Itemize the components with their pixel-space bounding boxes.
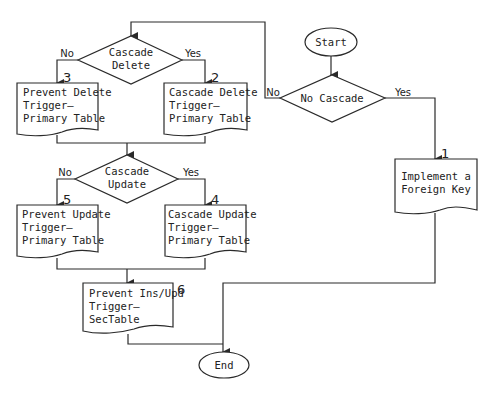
step-1-line2: Foreign Key	[401, 183, 471, 195]
cascade-delete-yes-label: Yes	[184, 48, 201, 59]
step-6-line2: Trigger—	[89, 300, 140, 312]
connector-cascadeupdate-yes	[178, 179, 205, 205]
step-5-prevent-update-trigger: Prevent Update Trigger— Primary Table 5	[17, 192, 111, 258]
step-4-line2: Trigger—	[168, 221, 219, 233]
step-5-line2: Trigger—	[22, 221, 73, 233]
decision-no-cascade-label: No Cascade	[300, 92, 363, 104]
step-3-line1: Prevent Delete	[23, 86, 112, 98]
step-3-line2: Trigger—	[23, 99, 74, 111]
step-4-number: 4	[211, 192, 219, 207]
step-4-cascade-update-trigger: Cascade Update Trigger— Primary Table 4	[165, 192, 257, 258]
start-label: Start	[315, 36, 347, 48]
step-6-line1: Prevent Ins/Upd	[89, 287, 184, 299]
step-2-number: 2	[211, 70, 219, 85]
end-label: End	[215, 359, 234, 371]
connector-step6-to-end	[128, 334, 223, 344]
connector-join-update	[57, 258, 205, 269]
connector-step1-to-end	[223, 213, 435, 352]
cascade-update-yes-label: Yes	[182, 167, 199, 178]
no-cascade-no-label: No	[266, 87, 280, 98]
step-3-prevent-delete-trigger: Prevent Delete Trigger— Primary Table 3	[17, 70, 112, 136]
decision-cascade-update: Cascade Update Yes No	[58, 155, 199, 203]
no-cascade-yes-label: Yes	[394, 87, 411, 98]
step-5-number: 5	[63, 192, 71, 207]
cascade-update-no-label: No	[58, 167, 72, 178]
connector-cascadedelete-yes	[182, 60, 205, 83]
step-4-line1: Cascade Update	[168, 208, 257, 220]
step-6-number: 6	[177, 282, 185, 297]
end-terminal: End	[199, 352, 249, 378]
step-5-line1: Prevent Update	[22, 208, 111, 220]
decision-cascade-delete: Cascade Delete Yes No	[60, 36, 201, 84]
flowchart: Start No Cascade Yes No Cascade Delete Y…	[0, 0, 491, 397]
step-6-line3: SecTable	[89, 313, 140, 325]
step-4-line3: Primary Table	[168, 234, 250, 246]
cascade-update-line1: Cascade	[105, 165, 149, 177]
step-6-prevent-insupd-trigger: Prevent Ins/Upd Trigger— SecTable 6	[83, 282, 185, 333]
step-2-cascade-delete-trigger: Cascade Delete Trigger— Primary Table 2	[164, 70, 258, 136]
step-1-implement-foreign-key: Implement a Foreign Key 1	[395, 146, 477, 214]
step-3-line3: Primary Table	[23, 112, 105, 124]
step-2-line1: Cascade Delete	[169, 86, 258, 98]
start-terminal: Start	[305, 28, 357, 56]
step-3-number: 3	[63, 70, 71, 85]
step-1-line1: Implement a	[401, 170, 471, 182]
step-5-line3: Primary Table	[22, 234, 104, 246]
cascade-update-line2: Update	[108, 178, 146, 190]
step-1-number: 1	[441, 146, 449, 161]
connector-nocascade-yes	[385, 98, 435, 159]
step-2-line3: Primary Table	[169, 112, 251, 124]
cascade-delete-line1: Cascade	[109, 46, 153, 58]
cascade-delete-no-label: No	[60, 48, 74, 59]
cascade-delete-line2: Delete	[112, 59, 150, 71]
step-2-line2: Trigger—	[169, 99, 220, 111]
